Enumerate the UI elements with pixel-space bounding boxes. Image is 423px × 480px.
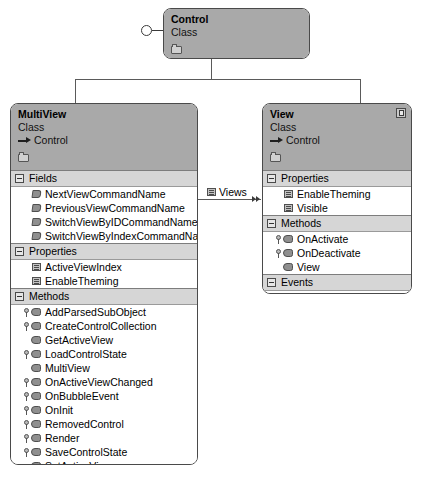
property-icon: [284, 190, 293, 198]
member-name: AddParsedSubObject: [45, 305, 146, 319]
member-row[interactable]: OnActiveViewChanged: [11, 375, 197, 389]
collapse-box-icon[interactable]: [267, 174, 276, 183]
property-icon: [32, 277, 41, 285]
member-list-events-view: ✓ Activate ✓ Deactivate: [263, 291, 411, 294]
member-row[interactable]: RemovedControl: [11, 417, 197, 431]
collapse-box-icon[interactable]: [15, 247, 24, 256]
method-icon: [31, 308, 41, 316]
member-row[interactable]: MultiView: [11, 361, 197, 375]
member-row[interactable]: View: [263, 260, 411, 274]
member-row[interactable]: PreviousViewCommandName: [11, 201, 197, 215]
member-icon-slot: [271, 232, 293, 246]
member-icon-slot: [19, 445, 41, 459]
collapse-box-icon[interactable]: [267, 278, 276, 287]
member-name: ActiveViewIndex: [45, 260, 122, 274]
field-icon: [31, 190, 41, 198]
association-arrowhead-2: [256, 196, 260, 202]
member-row[interactable]: NextViewCommandName: [11, 187, 197, 201]
member-icon-slot: [19, 375, 41, 389]
member-row[interactable]: ActiveViewIndex: [11, 260, 197, 274]
protected-key-icon: [24, 308, 30, 317]
member-icon-slot: [19, 403, 41, 417]
property-icon: [284, 204, 293, 212]
member-list-methods-multiview: AddParsedSubObject CreateControlCollecti…: [11, 305, 197, 465]
member-row[interactable]: OnInit: [11, 403, 197, 417]
member-row[interactable]: SaveControlState: [11, 445, 197, 459]
collapse-box-icon[interactable]: [15, 174, 24, 183]
class-box-multiview[interactable]: MultiView Class Control Fields NextViewC…: [10, 103, 198, 465]
member-icon-slot: [19, 229, 41, 243]
section-header-properties-multiview[interactable]: Properties: [11, 243, 197, 260]
method-icon: [31, 364, 41, 372]
section-title: Methods: [29, 290, 69, 303]
protected-key-icon: [24, 322, 30, 331]
member-row[interactable]: OnBubbleEvent: [11, 389, 197, 403]
member-row[interactable]: Visible: [263, 201, 411, 215]
class-box-view[interactable]: View Class Control Properties EnableThem…: [262, 103, 412, 294]
section-header-methods-multiview[interactable]: Methods: [11, 288, 197, 305]
method-icon: [31, 434, 41, 442]
member-name: SetActiveView: [45, 459, 112, 465]
inheritance-arrow-icon: [270, 136, 283, 145]
member-icon-slot: [271, 201, 293, 215]
member-row[interactable]: SetActiveView: [11, 459, 197, 465]
member-row[interactable]: OnActivate: [263, 232, 411, 246]
inheritance-stem-vertical: [211, 58, 212, 79]
member-row[interactable]: SwitchViewByIDCommandName: [11, 215, 197, 229]
class-name-control: Control: [171, 13, 302, 26]
member-name: CreateControlCollection: [45, 319, 156, 333]
section-header-events-view[interactable]: Events: [263, 274, 411, 291]
member-row[interactable]: OnDeactivate: [263, 246, 411, 260]
section-header-methods-view[interactable]: Methods: [263, 215, 411, 232]
collapse-box-icon[interactable]: [15, 292, 24, 301]
method-icon: [31, 406, 41, 414]
member-icon-slot: ✓: [271, 291, 293, 294]
collapse-box-icon[interactable]: [267, 219, 276, 228]
member-icon-slot: [19, 333, 41, 347]
protected-key-icon: [24, 448, 30, 457]
member-list-properties-multiview: ActiveViewIndex EnableTheming: [11, 260, 197, 288]
member-row[interactable]: SwitchViewByIndexCommandName: [11, 229, 197, 243]
class-base-label-multiview: Control: [34, 134, 68, 147]
property-icon: [32, 263, 41, 271]
event-icon: ✓: [286, 294, 293, 295]
member-row[interactable]: ✓ Activate: [263, 291, 411, 294]
member-list-fields-multiview: NextViewCommandName PreviousViewCommandN…: [11, 187, 197, 243]
member-name: View: [297, 260, 320, 274]
member-row[interactable]: AddParsedSubObject: [11, 305, 197, 319]
method-icon: [31, 392, 41, 400]
member-row[interactable]: EnableTheming: [263, 187, 411, 201]
member-row[interactable]: LoadControlState: [11, 347, 197, 361]
member-row[interactable]: CreateControlCollection: [11, 319, 197, 333]
member-name: OnActivate: [297, 232, 348, 246]
namespace-folder-icon-view: [270, 148, 404, 166]
member-row[interactable]: Render: [11, 431, 197, 445]
member-icon-slot: [19, 319, 41, 333]
member-name: OnDeactivate: [297, 246, 361, 260]
class-base-label-view: Control: [286, 134, 320, 147]
member-icon-slot: [271, 260, 293, 274]
namespace-folder-icon-control: [171, 40, 302, 58]
class-stereotype-view: Class: [270, 121, 404, 134]
member-name: EnableTheming: [45, 274, 119, 288]
field-icon: [31, 204, 41, 212]
member-row[interactable]: GetActiveView: [11, 333, 197, 347]
section-header-fields-multiview[interactable]: Fields: [11, 170, 197, 187]
member-name: EnableTheming: [297, 187, 371, 201]
member-name: SwitchViewByIDCommandName: [45, 215, 198, 229]
member-row[interactable]: EnableTheming: [11, 274, 197, 288]
protected-key-icon: [24, 406, 30, 415]
inheritance-bus-horizontal: [75, 79, 360, 80]
member-icon-slot: [19, 215, 41, 229]
method-icon: [31, 420, 41, 428]
class-name-view: View: [270, 108, 404, 121]
class-box-control[interactable]: Control Class: [163, 8, 310, 59]
member-name: NextViewCommandName: [45, 187, 166, 201]
member-name: SaveControlState: [45, 445, 127, 459]
method-icon: [283, 249, 293, 257]
member-icon-slot: [19, 201, 41, 215]
section-header-properties-view[interactable]: Properties: [263, 170, 411, 187]
protected-key-icon: [24, 392, 30, 401]
section-title: Properties: [281, 172, 329, 185]
class-header-view: View Class Control: [263, 104, 411, 170]
